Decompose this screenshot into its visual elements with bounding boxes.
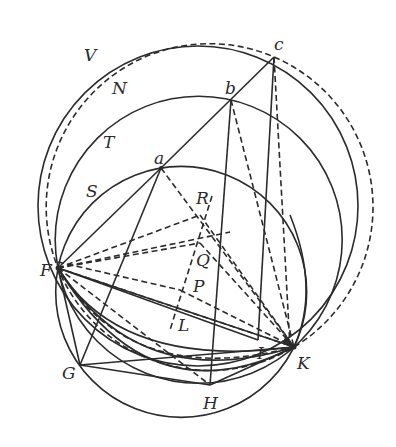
label-a: a — [154, 150, 164, 167]
label-v: V — [84, 47, 96, 64]
dash-b-k — [231, 100, 294, 347]
label-k: K — [297, 355, 310, 372]
label-c: c — [274, 36, 284, 53]
line-g-h — [80, 365, 210, 385]
label-t: T — [103, 134, 114, 151]
point-f — [56, 266, 61, 271]
dash-f-p-line — [58, 262, 180, 290]
dash-c-k — [274, 57, 290, 347]
geometry-diagram — [0, 0, 396, 447]
circle-n-dashed — [46, 44, 373, 371]
label-h: H — [203, 395, 218, 412]
label-f: F — [40, 262, 52, 279]
label-i: I — [257, 345, 264, 362]
label-n: N — [112, 80, 127, 97]
label-q: Q — [196, 252, 210, 269]
dash-f-r — [58, 215, 200, 268]
line-c-i — [258, 57, 274, 340]
label-r: R — [196, 190, 209, 207]
line-a-c — [161, 57, 274, 168]
label-s: S — [86, 183, 98, 200]
label-b: b — [225, 80, 236, 97]
label-g: G — [62, 365, 76, 382]
label-p: P — [193, 278, 204, 295]
label-l: L — [178, 317, 189, 334]
